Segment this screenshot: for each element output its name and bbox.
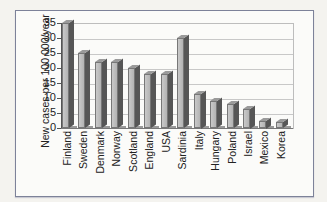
x-tick-label: Denmark [94,131,106,183]
x-tick-label: Poland [226,131,238,183]
y-tick-label: 10 [38,92,56,103]
bar-sardinia [177,38,189,128]
x-tick-label: Italy [193,131,205,183]
y-tick-mark [57,98,61,99]
bar-korea [276,122,288,128]
bar-finland [62,23,74,128]
x-tick-label: Korea [275,131,287,183]
x-tick-label: Mexico [258,131,270,183]
bar-poland [227,104,239,128]
bar-scotland [128,68,140,128]
y-tick-mark [57,113,61,114]
y-tick-label: 15 [38,77,56,88]
bar-england [144,74,156,128]
bar-norway [111,62,123,128]
bar-denmark [95,62,107,128]
x-tick-label: Scotland [127,131,139,183]
y-tick-mark [57,128,61,129]
y-tick-mark [57,83,61,84]
y-tick-mark [57,68,61,69]
x-tick-label: USA [160,131,172,183]
y-tick-label: 20 [38,62,56,73]
y-tick-label: 25 [38,47,56,58]
bar-usa [161,74,173,128]
bar-mexico [259,121,271,129]
x-tick-label: Norway [110,131,122,183]
bar-hungary [210,101,222,128]
x-tick-label: Hungary [209,131,221,183]
bar-italy [194,94,206,129]
y-tick-mark [57,23,61,24]
y-tick-label: 35 [38,17,56,28]
x-tick-label: Finland [61,131,73,183]
y-tick-label: 5 [38,107,56,118]
x-tick-label: Israel [242,131,254,183]
y-tick-mark [57,38,61,39]
y-tick-label: 30 [38,32,56,43]
bar-israel [243,109,255,129]
x-tick-label: Sardinia [176,131,188,183]
y-tick-label: 0 [38,122,56,133]
bar-sweden [78,53,90,128]
x-axis [61,128,293,129]
x-tick-label: Sweden [77,131,89,183]
x-tick-label: England [143,131,155,183]
y-tick-mark [57,53,61,54]
